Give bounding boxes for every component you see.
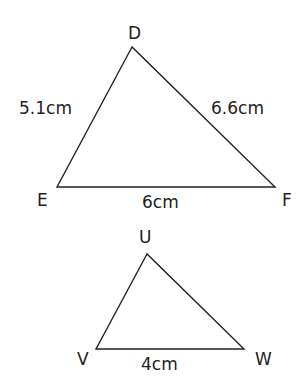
- side-label-vw: 4cm: [141, 356, 178, 373]
- vertex-label-u: U: [139, 229, 151, 246]
- vertex-label-e: E: [37, 192, 48, 209]
- side-label-df: 6.6cm: [211, 100, 264, 117]
- vertex-label-d: D: [128, 25, 141, 42]
- side-label-ef: 6cm: [142, 194, 179, 211]
- vertex-label-f: F: [282, 192, 292, 209]
- triangle-uvw: [96, 254, 244, 349]
- side-label-de: 5.1cm: [19, 100, 72, 117]
- vertex-label-w: W: [255, 351, 272, 368]
- vertex-label-v: V: [77, 351, 89, 368]
